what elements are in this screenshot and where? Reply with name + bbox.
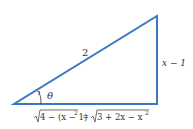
- adjacent-lhs-exponent: 2: [74, 109, 78, 116]
- adjacent-equals: =: [82, 112, 89, 122]
- adjacent-rhs-exponent: 2: [145, 109, 149, 116]
- angle-label: θ: [47, 90, 53, 101]
- right-triangle: [14, 16, 157, 104]
- opposite-label: x − 1: [162, 58, 186, 68]
- triangle-diagram: θ 2 x − 1 4 − (x − 1) 2 = 3 + 2x − x 2: [0, 0, 193, 129]
- hypotenuse-label: 2: [82, 47, 88, 58]
- adjacent-lhs-radicand: 4 − (x − 1): [40, 112, 87, 122]
- adjacent-rhs-radicand: 3 + 2x − x: [97, 112, 143, 122]
- adjacent-label: 4 − (x − 1) 2 = 3 + 2x − x 2: [34, 109, 149, 122]
